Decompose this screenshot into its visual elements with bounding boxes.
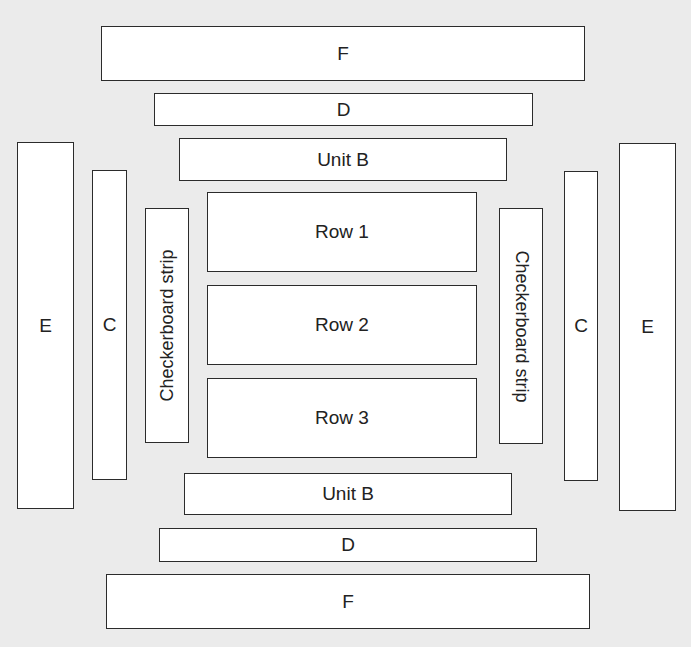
row-3-box: Row 3: [207, 378, 477, 458]
top-d-label: D: [337, 99, 351, 121]
top-f-label: F: [337, 43, 349, 65]
left-e-label: E: [39, 315, 52, 337]
row-1-box: Row 1: [207, 192, 477, 272]
left-c-box: C: [92, 170, 127, 480]
right-checkerboard-strip-label: Checkerboard strip: [511, 250, 532, 402]
left-checkerboard-strip-box: Checkerboard strip: [145, 208, 189, 443]
top-d-box: D: [154, 93, 533, 126]
row-2-box: Row 2: [207, 285, 477, 365]
right-checkerboard-strip-box: Checkerboard strip: [499, 208, 543, 444]
bottom-unit-b-box: Unit B: [184, 473, 512, 515]
right-e-box: E: [619, 143, 676, 511]
top-unit-b-label: Unit B: [317, 149, 369, 171]
row-2-label: Row 2: [315, 314, 369, 336]
bottom-d-label: D: [341, 534, 355, 556]
left-checkerboard-strip-label: Checkerboard strip: [157, 249, 178, 401]
left-c-label: C: [103, 314, 117, 336]
left-e-box: E: [17, 142, 74, 509]
bottom-f-box: F: [106, 574, 590, 629]
right-c-box: C: [564, 171, 598, 481]
row-1-label: Row 1: [315, 221, 369, 243]
top-f-box: F: [101, 26, 585, 81]
bottom-d-box: D: [159, 528, 537, 562]
right-c-label: C: [574, 315, 588, 337]
top-unit-b-box: Unit B: [179, 138, 507, 181]
bottom-unit-b-label: Unit B: [322, 483, 374, 505]
row-3-label: Row 3: [315, 407, 369, 429]
bottom-f-label: F: [342, 591, 354, 613]
right-e-label: E: [641, 316, 654, 338]
